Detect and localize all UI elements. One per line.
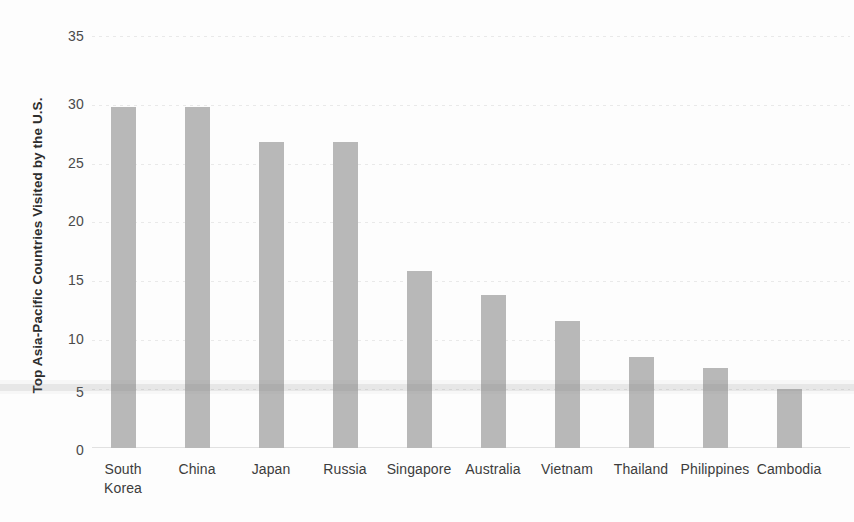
x-tick-label-china: China bbox=[178, 460, 215, 479]
bar-south-korea[interactable] bbox=[111, 107, 136, 448]
bar-russia[interactable] bbox=[333, 142, 358, 448]
y-tick-label: 30 bbox=[44, 96, 84, 112]
bar-china[interactable] bbox=[185, 107, 210, 448]
chart-page: 35 30 25 20 15 10 5 0 Top Asia-Pacific C… bbox=[0, 0, 854, 522]
y-tick-label: 25 bbox=[44, 155, 84, 171]
bar-vietnam[interactable] bbox=[555, 321, 580, 448]
bar-thailand[interactable] bbox=[629, 357, 654, 448]
x-tick-label-russia: Russia bbox=[323, 460, 366, 479]
bar-philippines[interactable] bbox=[703, 368, 728, 448]
y-axis-title: Top Asia-Pacific Countries Visited by th… bbox=[30, 46, 45, 446]
plot-area bbox=[92, 36, 850, 448]
x-tick-label-vietnam: Vietnam bbox=[541, 460, 593, 479]
x-axis-tick-labels: South Korea China Japan Russia Singapore… bbox=[92, 460, 850, 510]
bar-cambodia[interactable] bbox=[777, 389, 802, 448]
gridline bbox=[92, 105, 850, 106]
y-tick-label: 15 bbox=[44, 272, 84, 288]
x-tick-label-thailand: Thailand bbox=[614, 460, 669, 479]
gridline bbox=[92, 36, 850, 37]
x-tick-label-singapore: Singapore bbox=[387, 460, 452, 479]
y-tick-label: 10 bbox=[44, 331, 84, 347]
bar-australia[interactable] bbox=[481, 295, 506, 448]
bar-japan[interactable] bbox=[259, 142, 284, 448]
y-tick-label: 20 bbox=[44, 213, 84, 229]
x-tick-label-south-korea: South Korea bbox=[104, 460, 142, 498]
y-tick-label: 0 bbox=[44, 442, 84, 458]
y-tick-label: 35 bbox=[44, 28, 84, 44]
bar-singapore[interactable] bbox=[407, 271, 432, 448]
x-tick-label-australia: Australia bbox=[465, 460, 520, 479]
x-tick-label-cambodia: Cambodia bbox=[757, 460, 822, 479]
x-tick-label-japan: Japan bbox=[252, 460, 291, 479]
y-tick-label: 5 bbox=[44, 384, 84, 400]
x-tick-label-philippines: Philippines bbox=[681, 460, 750, 479]
